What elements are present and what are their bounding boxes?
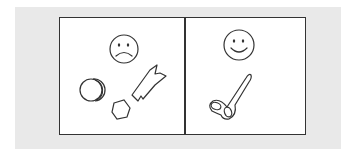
panel-right: happy face — [185, 18, 306, 134]
panel-left: sad face — [60, 18, 184, 134]
broken-piece-icon — [60, 18, 184, 136]
scissors-icon — [185, 18, 306, 136]
comparison-card: sad face happy face — [59, 17, 306, 135]
